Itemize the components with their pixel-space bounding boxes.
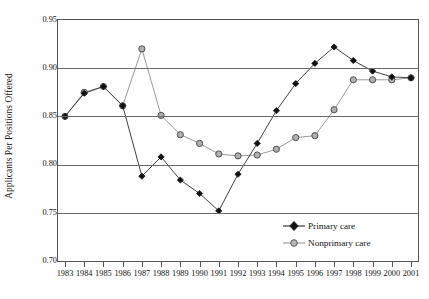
gridline bbox=[58, 68, 418, 69]
x-tick-mark bbox=[161, 262, 162, 267]
data-point-marker bbox=[158, 112, 164, 118]
y-axis-ticks: 0.700.750.800.850.900.95 bbox=[22, 0, 57, 299]
legend-label-nonprimary-care: Nonprimary care bbox=[306, 238, 371, 248]
series-nonprimary-care bbox=[62, 46, 414, 159]
y-axis-title-text: Applicants Per Positions Offered bbox=[4, 73, 14, 199]
data-point-marker bbox=[177, 132, 183, 138]
filled-diamond-marker-icon bbox=[282, 219, 306, 233]
x-tick-mark bbox=[373, 262, 374, 267]
data-point-marker bbox=[197, 140, 203, 146]
chart-container: Applicants Per Positions Offered 0.700.7… bbox=[0, 0, 429, 299]
x-tick-mark bbox=[142, 262, 143, 267]
gridline bbox=[58, 165, 418, 166]
data-point-marker bbox=[312, 133, 318, 139]
legend-label-primary-care: Primary care bbox=[306, 221, 355, 231]
x-tick-mark bbox=[296, 262, 297, 267]
data-point-marker bbox=[350, 77, 356, 83]
y-tick-label: 0.75 bbox=[27, 209, 57, 217]
x-tick-mark bbox=[219, 262, 220, 267]
x-tick-mark bbox=[200, 262, 201, 267]
legend-item-nonprimary-care: Nonprimary care bbox=[282, 234, 402, 251]
data-point-marker bbox=[139, 46, 145, 52]
x-tick-mark bbox=[103, 262, 104, 267]
x-tick-mark bbox=[392, 262, 393, 267]
data-point-marker bbox=[216, 151, 222, 157]
x-tick-mark bbox=[238, 262, 239, 267]
gridline bbox=[58, 213, 418, 214]
data-point-marker bbox=[254, 140, 260, 146]
y-tick-label: 0.80 bbox=[27, 160, 57, 168]
x-tick-mark bbox=[257, 262, 258, 267]
x-tick-mark bbox=[315, 262, 316, 267]
data-point-marker bbox=[235, 153, 241, 159]
x-tick-label: 2001 bbox=[396, 269, 426, 278]
series-line bbox=[65, 49, 411, 156]
y-tick-label: 0.85 bbox=[27, 112, 57, 120]
x-tick-mark bbox=[123, 262, 124, 267]
chart-legend: Primary care Nonprimary care bbox=[282, 217, 402, 255]
x-tick-mark bbox=[65, 262, 66, 267]
series-primary-care bbox=[62, 44, 414, 214]
data-point-marker bbox=[293, 135, 299, 141]
data-point-marker bbox=[350, 57, 356, 63]
open-circle-marker-icon bbox=[282, 236, 306, 250]
y-tick-label: 0.95 bbox=[27, 16, 57, 24]
y-axis-title: Applicants Per Positions Offered bbox=[0, 0, 18, 272]
x-axis-ticks: 1983198419851986198719881989199019911992… bbox=[0, 262, 429, 299]
x-tick-mark bbox=[276, 262, 277, 267]
data-point-marker bbox=[235, 171, 241, 177]
y-tick-label: 0.90 bbox=[27, 64, 57, 72]
x-tick-mark bbox=[353, 262, 354, 267]
data-point-marker bbox=[273, 108, 279, 114]
x-tick-mark bbox=[334, 262, 335, 267]
x-tick-mark bbox=[411, 262, 412, 267]
data-point-marker bbox=[273, 146, 279, 152]
data-point-marker bbox=[331, 107, 337, 113]
legend-item-primary-care: Primary care bbox=[282, 217, 402, 234]
x-tick-mark bbox=[180, 262, 181, 267]
series-line bbox=[65, 47, 411, 211]
x-tick-mark bbox=[84, 262, 85, 267]
data-point-marker bbox=[254, 152, 260, 158]
gridline bbox=[58, 116, 418, 117]
data-point-marker bbox=[370, 77, 376, 83]
